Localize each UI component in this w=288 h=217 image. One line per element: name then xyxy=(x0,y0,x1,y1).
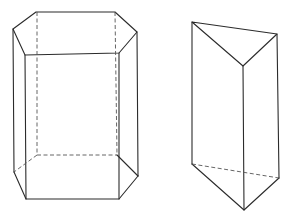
tri-edge-front xyxy=(243,66,244,210)
hex-hidden-edge-back-right xyxy=(115,12,117,155)
tri-edge-right xyxy=(277,34,279,178)
hexagonal-prism xyxy=(13,12,138,199)
hex-edge-bottom-back-right xyxy=(117,155,138,176)
figure-canvas xyxy=(0,0,288,217)
triangular-prism-bottom-visible xyxy=(192,164,279,210)
triangular-prism xyxy=(192,22,279,210)
hexagonal-prism-top-face xyxy=(13,12,137,55)
hex-edge-front-left xyxy=(25,55,26,199)
hex-edge-right xyxy=(137,32,138,176)
geometric-solids-diagram xyxy=(0,0,288,217)
triangular-prism-top-face xyxy=(192,22,277,66)
hex-edge-left xyxy=(13,29,14,172)
